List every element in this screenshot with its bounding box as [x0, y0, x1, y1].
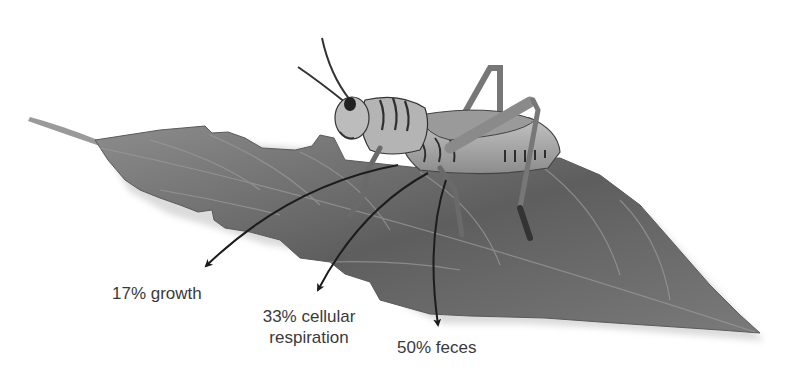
grasshopper-leaf-illustration [0, 0, 787, 374]
antenna [322, 38, 350, 100]
label-cellular-respiration-line2: respiration [248, 327, 370, 348]
leaf-stem [28, 117, 100, 146]
label-feces: 50% feces [397, 337, 476, 358]
label-growth: 17% growth [112, 283, 202, 304]
eye [344, 97, 356, 111]
label-cellular-respiration: 33% cellular respiration [248, 306, 370, 348]
label-cellular-respiration-line1: 33% cellular [248, 306, 370, 327]
